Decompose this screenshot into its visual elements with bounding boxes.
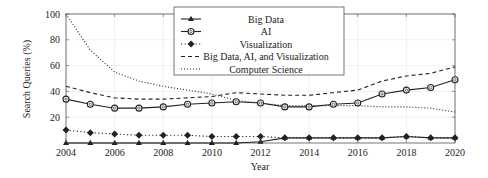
legend-entry: Big Data, AI, and Visualization [181, 51, 329, 62]
data-point [87, 129, 94, 136]
data-point [160, 104, 166, 110]
data-point [208, 133, 215, 140]
legend-swatch-marker [188, 29, 194, 35]
x-tick-label: 2012 [251, 147, 271, 158]
legend-label: AI [261, 26, 272, 37]
data-point [233, 133, 240, 140]
x-tick-label: 2018 [396, 147, 416, 158]
data-point [136, 140, 142, 145]
y-tick-label: 100 [45, 9, 60, 20]
data-point [306, 104, 312, 110]
data-point [63, 96, 69, 102]
data-point [63, 127, 70, 134]
data-point [209, 100, 215, 106]
x-tick-label: 2004 [56, 147, 76, 158]
x-tick-label: 2020 [445, 147, 465, 158]
x-axis-title: Year [251, 161, 270, 172]
data-point [136, 105, 142, 111]
data-point [185, 140, 191, 145]
data-point [428, 85, 434, 91]
data-point [330, 101, 336, 107]
y-axis-title: Search Queries (%) [21, 40, 33, 118]
data-point [355, 100, 361, 106]
data-point [160, 132, 167, 139]
data-point [379, 91, 385, 97]
data-point [87, 101, 93, 107]
data-point [233, 99, 239, 105]
y-tick-label: 60 [50, 60, 60, 71]
data-point [185, 101, 191, 107]
data-point [258, 100, 264, 106]
legend-label: Computer Science [229, 64, 303, 75]
y-tick-label: 40 [50, 86, 60, 97]
data-point [111, 130, 118, 137]
x-tick-label: 2008 [153, 147, 173, 158]
x-tick-label: 2010 [202, 147, 222, 158]
data-point [403, 87, 409, 93]
y-tick-label: 80 [50, 34, 60, 45]
x-tick-label: 2016 [348, 147, 368, 158]
line-chart: 200420062008201020122014201620182020 204… [0, 0, 488, 178]
legend-label: Big Data, AI, and Visualization [203, 51, 328, 62]
legend-label: Visualization [240, 39, 293, 50]
data-point [282, 104, 288, 110]
data-point [112, 105, 118, 111]
x-tick-label: 2006 [105, 147, 125, 158]
legend: Big DataAIVisualizationBig Data, AI, and… [174, 7, 344, 75]
data-point [87, 140, 93, 145]
data-point [184, 132, 191, 139]
x-tick-label: 2014 [299, 147, 319, 158]
legend-label: Big Data [248, 14, 284, 25]
data-point [135, 132, 142, 139]
data-point [452, 77, 458, 83]
y-tick-label: 20 [50, 112, 60, 123]
